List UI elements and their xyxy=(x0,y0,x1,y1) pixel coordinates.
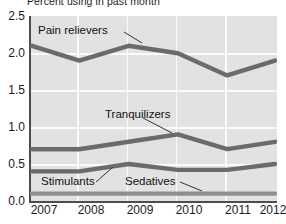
series-label-sedatives: Sedatives xyxy=(125,175,176,187)
leader-line-sedatives xyxy=(180,182,202,191)
x-tick-label: 2008 xyxy=(78,203,105,217)
leader-line-pain-relievers xyxy=(124,32,142,43)
x-axis-labels: 2007 2008 2009 2010 2011 2012 xyxy=(30,203,277,221)
x-tick-label: 2009 xyxy=(127,203,154,217)
chart-title: Percent using in past month xyxy=(27,0,160,7)
y-axis-labels: 2.5 2.0 1.5 1.0 0.5 0.0 xyxy=(0,16,27,201)
x-tick-label: 2007 xyxy=(31,203,58,217)
y-tick-label: 0.0 xyxy=(8,194,25,208)
series-label-tranquilizers: Tranquilizers xyxy=(105,108,170,120)
x-tick-label: 2011 xyxy=(225,203,251,217)
x-tick-label: 2010 xyxy=(176,203,203,217)
y-tick-label: 1.5 xyxy=(8,83,25,97)
y-tick-label: 2.5 xyxy=(8,9,25,23)
chart-figure: Percent using in past month 2.5 2.0 1.5 … xyxy=(0,0,286,224)
series-line-tranquilizers xyxy=(32,134,275,149)
y-tick-label: 0.5 xyxy=(8,157,25,171)
series-label-pain-relievers: Pain relievers xyxy=(38,24,108,36)
x-tick-label: 2012 xyxy=(260,203,286,217)
series-line-pain-relievers xyxy=(32,46,275,76)
leader-line-tranquilizers xyxy=(143,118,172,133)
y-tick-label: 1.0 xyxy=(8,120,25,134)
series-label-stimulants: Stimulants xyxy=(41,175,95,187)
series-line-stimulants xyxy=(32,164,275,171)
y-tick-label: 2.0 xyxy=(8,46,25,60)
